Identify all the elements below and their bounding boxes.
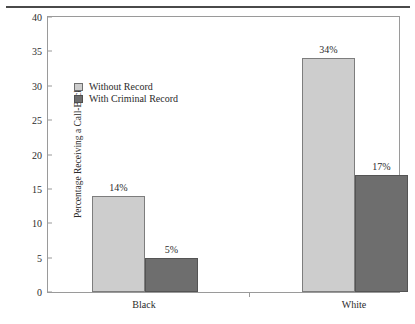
y-axis-title: Percentage Receiving a Call-Back xyxy=(73,28,83,278)
legend-swatch-light-icon xyxy=(74,83,83,91)
y-tick-mark xyxy=(48,154,52,155)
x-axis-category-label: White xyxy=(342,299,366,310)
bar-value-label: 34% xyxy=(319,44,337,55)
legend-item-with-criminal-record: With Criminal Record xyxy=(74,93,178,104)
legend-swatch-dark-icon xyxy=(74,95,83,103)
y-tick-label: 25 xyxy=(10,115,48,126)
y-tick-label: 35 xyxy=(10,46,48,57)
y-tick-mark xyxy=(48,292,52,293)
caption-fragment xyxy=(0,0,415,2)
y-tick-mark xyxy=(48,51,52,52)
legend-label-without-record: Without Record xyxy=(89,81,153,92)
bar-value-label: 17% xyxy=(372,161,390,172)
y-tick-mark xyxy=(48,223,52,224)
plot-area: Percentage Receiving a Call-Back 0510152… xyxy=(47,16,400,293)
y-tick-mark xyxy=(48,120,52,121)
x-axis-category-label: Black xyxy=(132,299,155,310)
y-tick-label: 5 xyxy=(10,252,48,263)
legend: Without Record With Criminal Record xyxy=(74,81,178,105)
y-tick-label: 30 xyxy=(10,80,48,91)
y-tick-label: 20 xyxy=(10,149,48,160)
x-axis-tick-mark xyxy=(249,293,250,297)
bar xyxy=(145,258,198,292)
bar-value-label: 14% xyxy=(109,182,127,193)
bar xyxy=(302,58,355,292)
y-tick-mark xyxy=(48,85,52,86)
y-tick-label: 0 xyxy=(10,287,48,298)
y-tick-label: 40 xyxy=(10,12,48,23)
legend-label-with-criminal-record: With Criminal Record xyxy=(89,93,178,104)
y-tick-label: 15 xyxy=(10,183,48,194)
y-tick-mark xyxy=(48,188,52,189)
bar xyxy=(92,196,145,292)
y-tick-mark xyxy=(48,17,52,18)
bar-value-label: 5% xyxy=(165,244,178,255)
bar xyxy=(355,175,408,292)
figure: Percentage Receiving a Call-Back 0510152… xyxy=(0,0,415,324)
top-rule xyxy=(6,6,410,8)
legend-item-without-record: Without Record xyxy=(74,81,178,92)
y-tick-mark xyxy=(48,257,52,258)
y-tick-label: 10 xyxy=(10,218,48,229)
